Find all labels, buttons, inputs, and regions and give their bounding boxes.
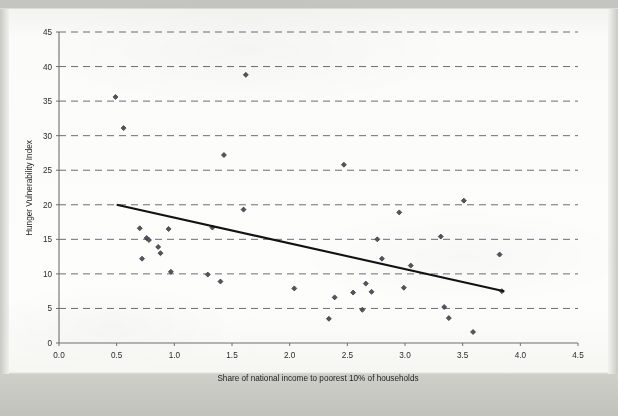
data-point (292, 286, 297, 291)
x-tick-label-3.5: 3.5 (457, 351, 469, 360)
y-tick-label-45: 45 (43, 28, 53, 37)
y-tick-label-0: 0 (47, 339, 52, 348)
gridlines (59, 32, 578, 308)
data-point (137, 226, 142, 231)
data-point (156, 244, 161, 249)
y-tick-label-15: 15 (43, 235, 53, 244)
x-tick-label-2.5: 2.5 (342, 351, 354, 360)
y-tick-label-25: 25 (43, 166, 53, 175)
y-tick-label-40: 40 (43, 63, 53, 72)
x-tick-label-2.0: 2.0 (284, 351, 296, 360)
data-point (375, 237, 380, 242)
x-tick-label-1.0: 1.0 (169, 351, 181, 360)
y-tick-label-35: 35 (43, 97, 53, 106)
data-point (221, 153, 226, 158)
axes (59, 32, 578, 343)
data-point (332, 295, 337, 300)
x-tick-label-3.0: 3.0 (399, 351, 411, 360)
y-tick-label-5: 5 (47, 304, 52, 313)
x-tick-label-1.5: 1.5 (226, 351, 238, 360)
y-tick-label-10: 10 (43, 270, 53, 279)
trend-line (117, 205, 505, 291)
data-points (113, 72, 504, 334)
scatter-chart: 051015202530354045 0.00.51.01.52.02.53.0… (0, 0, 618, 416)
data-point (471, 329, 476, 334)
data-point (351, 290, 356, 295)
data-point (243, 72, 248, 77)
data-point (121, 126, 126, 131)
data-point (379, 256, 384, 261)
data-point (341, 162, 346, 167)
data-point (497, 252, 502, 257)
y-axis-title: Hunger Vulnerability Index (25, 140, 34, 236)
data-point (438, 234, 443, 239)
data-point (166, 226, 171, 231)
x-tick-label-4.0: 4.0 (515, 351, 527, 360)
data-point (461, 198, 466, 203)
chart-svg: 051015202530354045 0.00.51.01.52.02.53.0… (0, 0, 618, 416)
data-point (397, 210, 402, 215)
y-tick-labels: 051015202530354045 (43, 28, 53, 348)
data-point (408, 263, 413, 268)
data-point (241, 207, 246, 212)
y-tick-label-20: 20 (43, 201, 53, 210)
x-tick-label-0.0: 0.0 (53, 351, 65, 360)
data-point (369, 289, 374, 294)
x-tick-label-4.5: 4.5 (572, 351, 584, 360)
data-point (218, 279, 223, 284)
data-point (326, 316, 331, 321)
y-tick-label-30: 30 (43, 132, 53, 141)
data-point (113, 94, 118, 99)
data-point (158, 251, 163, 256)
data-point (140, 256, 145, 261)
tick-marks (56, 32, 578, 346)
data-point (446, 316, 451, 321)
data-point (401, 285, 406, 290)
x-axis-title: Share of national income to poorest 10% … (217, 374, 418, 383)
x-tick-label-0.5: 0.5 (111, 351, 123, 360)
data-point (205, 272, 210, 277)
x-tick-labels: 0.00.51.01.52.02.53.03.54.04.5 (53, 351, 584, 360)
data-point (363, 281, 368, 286)
scanned-page: 051015202530354045 0.00.51.01.52.02.53.0… (0, 0, 618, 416)
